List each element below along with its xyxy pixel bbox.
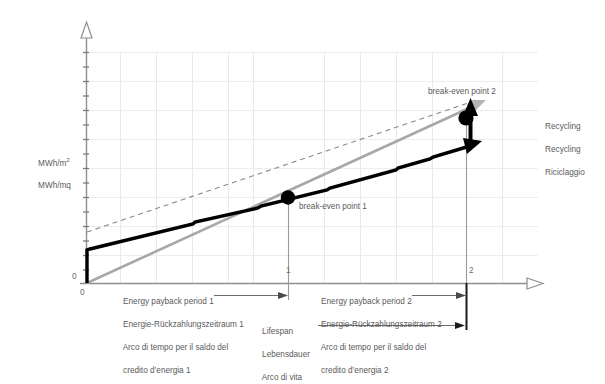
payback-period-1-label: Energy payback period 1 Energie-Rückzahl… <box>114 284 244 384</box>
payback-1-de: Energie-Rückzahlungszeitraum 1 <box>123 320 244 329</box>
y-axis-label-line1: MWh/m <box>38 159 66 168</box>
grid-horizontal <box>86 53 538 256</box>
payback-1-it-line1: Arco di tempo per il saldo del <box>123 343 229 352</box>
x-tick-label-2: 2 <box>469 266 474 275</box>
y-axis-arrowhead-icon <box>81 22 92 38</box>
x-tick-label-1: 1 <box>286 266 291 275</box>
recycling-label-it: Riciclaggio <box>545 168 585 177</box>
reference-dashed-line <box>87 103 468 232</box>
y-axis-label: MWh/m2 MWh/mq <box>29 144 71 203</box>
y-axis-origin-label: 0 <box>72 272 77 281</box>
black-energy-line <box>87 146 470 283</box>
break-even-point-1-label: break-even point 1 <box>299 201 367 213</box>
break-even-point-1-marker <box>281 190 295 204</box>
lifespan-label: Lifespan Lebensdauer Arco di vita <box>253 314 310 384</box>
recycling-label-en: Recycling <box>545 122 581 131</box>
y-axis-label-line2: MWh/mq <box>38 181 71 190</box>
lifespan-de: Lebensdauer <box>262 350 310 359</box>
payback-period-2-label: Energy payback period 2 Energie-Rückzahl… <box>312 284 442 384</box>
payback-2-it-line2: credito d’energia 2 <box>321 366 388 375</box>
recycling-label-de: Recycling <box>545 145 581 154</box>
x-axis-arrowhead-icon <box>527 278 543 289</box>
break-even-point-2-marker <box>458 110 473 125</box>
lifespan-en: Lifespan <box>262 327 293 336</box>
break-even-point-2-label: break-even point 2 <box>428 86 496 98</box>
recycling-label: Recycling Recycling Riciclaggio <box>536 109 585 190</box>
lifespan-it: Arco di vita <box>262 373 303 382</box>
payback-1-it-line2: credito d’energia 1 <box>123 366 190 375</box>
payback-2-en: Energy payback period 2 <box>321 297 412 306</box>
y-axis-label-superscript: 2 <box>66 157 69 163</box>
payback-2-it-line1: Arco di tempo per il saldo del <box>321 343 427 352</box>
payback-1-en: Energy payback period 1 <box>123 297 214 306</box>
x-axis-origin-label: 0 <box>80 288 85 297</box>
payback-2-de: Energie-Rückzahlungszeitraum 2 <box>321 320 442 329</box>
